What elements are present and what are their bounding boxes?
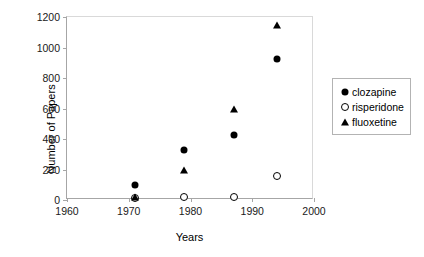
x-tick-label: 1970 [117, 205, 140, 217]
x-tick-mark [314, 198, 315, 202]
legend-item-fluoxetine[interactable]: fluoxetine [338, 114, 404, 129]
x-tick-label: 1990 [241, 205, 264, 217]
data-point-risperidone [273, 172, 281, 180]
y-tick-label: 1000 [37, 42, 60, 54]
data-point-clozapine [131, 181, 138, 188]
legend-item-risperidone[interactable]: risperidone [338, 99, 404, 114]
scatter-chart-figure: Number of Papers 020040060080010001200 1… [0, 0, 424, 257]
y-tick-label: 200 [42, 164, 60, 176]
y-tick-label: 1200 [37, 11, 60, 23]
x-tick-label: 1980 [179, 205, 202, 217]
data-point-fluoxetine [180, 166, 188, 173]
x-tick-mark [252, 198, 253, 202]
y-tick-label: 600 [42, 103, 60, 115]
data-point-fluoxetine [230, 105, 238, 112]
data-point-risperidone [230, 193, 238, 201]
legend-label: risperidone [352, 101, 404, 113]
y-tick-label: 400 [42, 133, 60, 145]
open-circle-marker-glyph [341, 103, 349, 111]
data-point-fluoxetine [273, 21, 281, 28]
x-tick-mark [191, 198, 192, 202]
filled-triangle-marker [338, 115, 351, 128]
legend-item-clozapine[interactable]: clozapine [338, 84, 404, 99]
y-tick-label: 800 [42, 72, 60, 84]
open-circle-marker [338, 100, 351, 113]
data-point-clozapine [230, 132, 237, 139]
y-axis-title: Number of Papers [45, 84, 57, 173]
x-tick-label: 2000 [302, 205, 325, 217]
x-tick-label: 1960 [55, 205, 78, 217]
plot-area: 020040060080010001200 196019701980199020… [66, 16, 313, 199]
filled-circle-marker-glyph [341, 88, 348, 95]
data-point-clozapine [273, 55, 280, 62]
filled-triangle-marker-glyph [341, 118, 349, 125]
legend-label: fluoxetine [352, 116, 397, 128]
legend-label: clozapine [352, 86, 396, 98]
x-axis-title: Years [66, 231, 313, 243]
x-tick-mark [129, 198, 130, 202]
data-point-risperidone [180, 193, 188, 201]
data-point-clozapine [181, 146, 188, 153]
data-point-fluoxetine [131, 193, 139, 200]
chart-legend: clozapinerisperidonefluoxetine [332, 78, 411, 135]
x-tick-mark [67, 198, 68, 202]
data-points-layer [67, 17, 312, 198]
filled-circle-marker [338, 85, 351, 98]
